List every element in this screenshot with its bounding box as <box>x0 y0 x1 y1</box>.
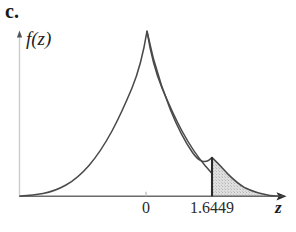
density-curve-helper-3 <box>147 31 212 162</box>
tick-label-critical-value: 1.6449 <box>172 198 252 218</box>
shaded-tail-region <box>212 158 284 197</box>
curve-construction-helper <box>21 31 212 195</box>
tick-label-zero: 0 <box>126 198 166 218</box>
tail-area-fill <box>212 158 284 197</box>
density-curve-right <box>147 31 212 161</box>
density-curve-left <box>21 31 213 196</box>
y-axis-arrow-icon <box>17 31 22 38</box>
normal-distribution-figure: c. f(z) <box>0 0 296 232</box>
x-axis-label: z <box>275 198 282 218</box>
